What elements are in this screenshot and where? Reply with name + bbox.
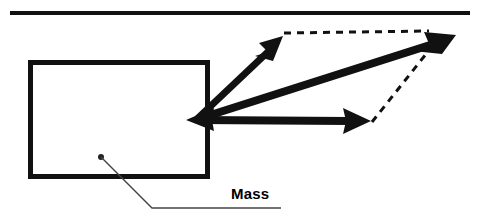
parallelogram-dashed-top-line <box>284 31 429 33</box>
mass-box <box>31 63 208 177</box>
resultant-vector <box>198 32 456 119</box>
mass-label: Mass <box>231 186 269 201</box>
force-vector-horizontal-shaft <box>197 120 349 121</box>
resultant-vector-head <box>413 32 456 54</box>
force-diagram: Mass <box>0 0 479 224</box>
force-vector-horizontal-head <box>343 108 371 134</box>
